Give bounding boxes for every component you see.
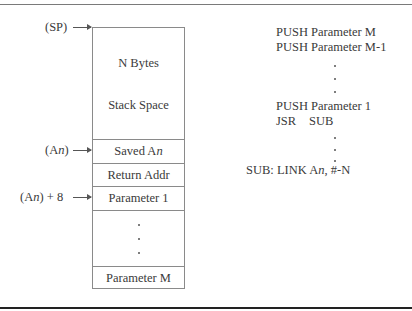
code-line-push-m-1: PUSH Parameter M-1 — [276, 40, 386, 54]
bottom-rule — [0, 307, 412, 309]
cell-return-addr: Return Addr — [93, 163, 184, 186]
dot-icon — [334, 78, 336, 80]
dot-icon — [138, 252, 140, 254]
stack-frame: N Bytes Stack Space Saved An Return Addr… — [92, 27, 185, 289]
sp-arrow-icon — [73, 27, 91, 28]
dot-icon — [334, 137, 336, 139]
dot-icon — [334, 91, 336, 93]
code-line-push-m: PUSH Parameter M — [276, 25, 376, 39]
cell-parameter-m: Parameter M — [93, 266, 184, 289]
top-rule — [0, 4, 412, 5]
dot-icon — [334, 65, 336, 67]
code-line-jsr-arg: SUB — [309, 114, 333, 128]
an-arrow-icon — [73, 150, 91, 151]
sp-label: (SP) — [45, 20, 67, 34]
cell-ellipsis — [93, 210, 184, 266]
code-line-sub-link: SUB: LINK An, #-N — [246, 163, 350, 177]
cell-parameter-1: Parameter 1 — [93, 186, 184, 210]
code-line-jsr-op: JSR — [276, 114, 296, 128]
cell-stack-space: Stack Space — [93, 98, 184, 112]
cell-saved-an: Saved An — [93, 139, 184, 163]
cell-n-bytes: N Bytes — [93, 56, 184, 70]
dot-icon — [138, 224, 140, 226]
an8-arrow-icon — [73, 197, 91, 198]
code-line-push-1: PUSH Parameter 1 — [276, 99, 371, 113]
an-label: (An) — [45, 143, 69, 157]
dot-icon — [334, 149, 336, 151]
dot-icon — [334, 160, 336, 162]
an-plus-8-label: (An) + 8 — [20, 190, 63, 204]
dot-icon — [138, 238, 140, 240]
